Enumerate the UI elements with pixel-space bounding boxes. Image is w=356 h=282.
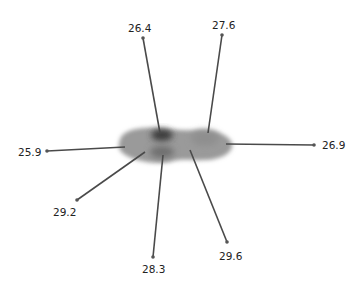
spoke-line: [77, 152, 145, 200]
spoke-endpoint: [312, 143, 316, 147]
spoke-endpoint: [225, 240, 229, 244]
spoke-line: [190, 150, 227, 242]
spoke-value-label: 26.9: [322, 139, 345, 151]
spoke-endpoint: [151, 255, 155, 259]
spoke-line: [153, 155, 163, 257]
spoke-endpoint: [45, 149, 49, 153]
spoke-endpoint: [141, 36, 145, 40]
spoke-line: [47, 147, 125, 151]
spoke-endpoint: [220, 33, 224, 37]
spoke-endpoint: [75, 198, 79, 202]
spider-diagram: 26.427.626.925.929.228.329.6: [0, 0, 356, 282]
spoke-value-label: 28.3: [142, 263, 165, 275]
spoke-value-label: 25.9: [18, 146, 41, 158]
spoke-value-label: 29.2: [53, 206, 76, 218]
spoke-value-label: 29.6: [219, 250, 242, 262]
spoke-value-label: 27.6: [212, 19, 235, 31]
spoke-line: [143, 38, 160, 133]
spoke-value-label: 26.4: [128, 22, 151, 34]
spoke-line: [208, 35, 222, 133]
diagram-canvas: [0, 0, 356, 282]
spoke-line: [226, 144, 314, 145]
